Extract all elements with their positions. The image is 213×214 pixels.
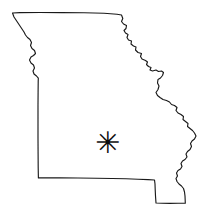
asterisk-marker: ✳: [95, 130, 113, 156]
missouri-outline-svg: [0, 0, 213, 214]
missouri-state-boundary-path: [13, 13, 197, 204]
state-outline-map: ✳: [0, 0, 213, 214]
